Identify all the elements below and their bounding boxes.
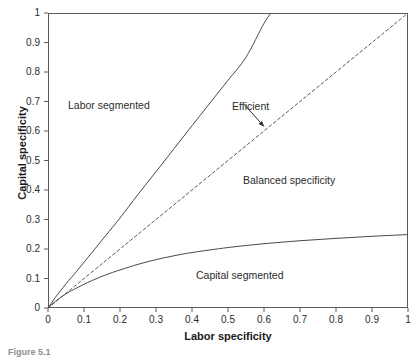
y-tick-label: 0.1	[10, 274, 40, 284]
x-tick-label: 0.8	[321, 315, 351, 325]
x-tick-label: 0.6	[249, 315, 279, 325]
region-label-balanced-specificity: Balanced specificity	[243, 174, 335, 186]
figure-caption: Figure 5.1	[8, 347, 51, 357]
y-tick-label: 0.2	[10, 244, 40, 254]
x-tick-label: 0.9	[357, 315, 387, 325]
series-line-0	[48, 13, 271, 308]
x-tick-label: 0.4	[177, 315, 207, 325]
annotation-label-efficient: Efficient	[232, 100, 269, 112]
x-tick-label: 0	[33, 315, 63, 325]
x-axis-title: Labor specificity	[148, 330, 308, 342]
y-tick-label: 0	[10, 303, 40, 313]
region-label-labor-segmented: Labor segmented	[68, 99, 150, 111]
y-tick-label: 1	[10, 8, 40, 18]
y-tick-label: 0.9	[10, 38, 40, 48]
x-tick-label: 0.7	[285, 315, 315, 325]
series-line-1	[48, 13, 408, 308]
region-label-capital-segmented: Capital segmented	[196, 269, 284, 281]
x-tick-label: 0.2	[105, 315, 135, 325]
x-tick-label: 0.3	[141, 315, 171, 325]
curve-group	[48, 13, 408, 308]
x-tick-label: 0.1	[69, 315, 99, 325]
y-axis-title: Capital specificity	[16, 93, 28, 213]
x-tick-label: 1	[393, 315, 420, 325]
y-tick-label: 0.3	[10, 215, 40, 225]
y-tick-label: 0.8	[10, 67, 40, 77]
x-tick-label: 0.5	[213, 315, 243, 325]
